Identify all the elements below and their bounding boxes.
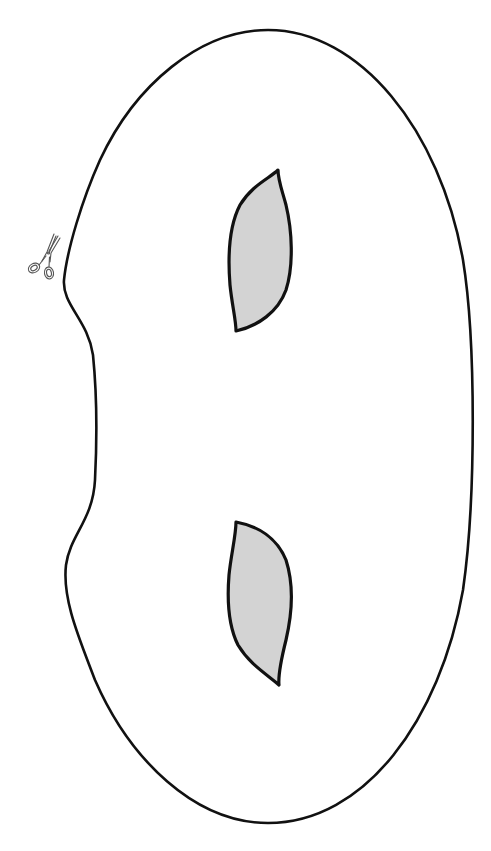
mask-template xyxy=(0,0,491,851)
scissors-handle-right-inner xyxy=(46,269,52,277)
scissors-handle-right xyxy=(44,266,55,279)
scissors-shank-left xyxy=(39,256,46,265)
left-eye-hole xyxy=(229,170,291,331)
scissors-handle-left xyxy=(27,261,42,275)
scissors-handle-left-inner xyxy=(30,264,38,271)
scissors-icon xyxy=(27,234,60,280)
right-eye-hole xyxy=(228,522,291,685)
scissors-shank-right xyxy=(49,257,50,267)
scissors-blade-left xyxy=(42,234,54,261)
mask-outline xyxy=(64,30,473,823)
